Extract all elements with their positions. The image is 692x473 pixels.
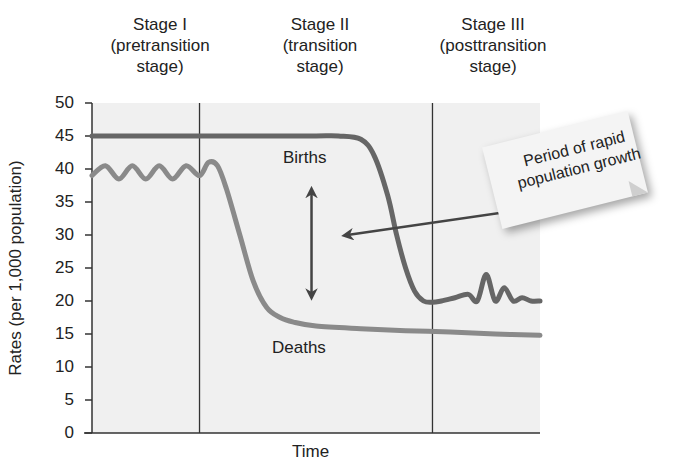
y-tick-label: 25 — [44, 258, 74, 278]
y-tick-label: 50 — [44, 93, 74, 113]
y-tick-label: 30 — [44, 225, 74, 245]
stage-2-desc: (transition — [235, 35, 405, 56]
deaths-label: Deaths — [272, 338, 326, 358]
y-tick-label: 35 — [44, 192, 74, 212]
y-tick-label: 20 — [44, 291, 74, 311]
y-tick-label: 40 — [44, 159, 74, 179]
stage-1-desc: (pretransition — [75, 35, 245, 56]
stage-2-name: Stage II — [235, 14, 405, 35]
stage-3-label: Stage III (posttransition stage) — [408, 14, 578, 77]
y-axis-label: Rates (per 1,000 population) — [6, 160, 26, 375]
stage-1-label: Stage I (pretransition stage) — [75, 14, 245, 77]
stage-3-desc: (posttransition — [408, 35, 578, 56]
y-tick-label: 45 — [44, 126, 74, 146]
stage-3-name: Stage III — [408, 14, 578, 35]
births-label: Births — [283, 148, 326, 168]
stage-1-desc-2: stage) — [75, 56, 245, 77]
y-tick-label: 10 — [44, 357, 74, 377]
y-tick-label: 0 — [44, 423, 74, 443]
stage-2-label: Stage II (transition stage) — [235, 14, 405, 77]
stage-2-desc-2: stage) — [235, 56, 405, 77]
stage-1-name: Stage I — [75, 14, 245, 35]
y-tick-label: 5 — [44, 390, 74, 410]
x-axis-label: Time — [292, 442, 329, 462]
stage-3-desc-2: stage) — [408, 56, 578, 77]
y-tick-label: 15 — [44, 324, 74, 344]
